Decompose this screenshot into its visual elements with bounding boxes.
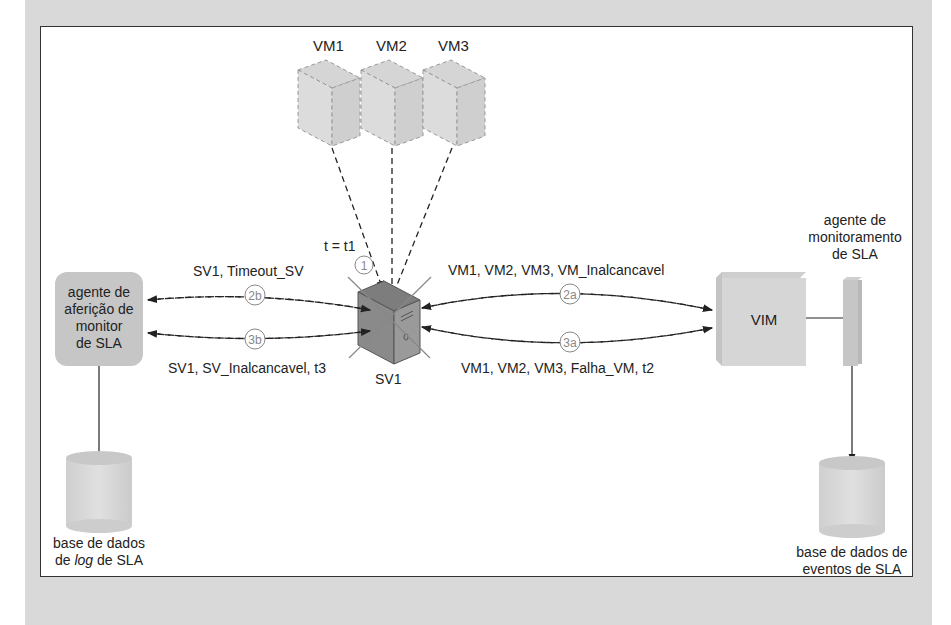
agent-line: monitor: [55, 318, 143, 335]
agent-line: de SLA: [55, 335, 143, 352]
db-italic: log: [74, 552, 93, 568]
db-line: base de dados de: [782, 544, 922, 561]
server-sv1-label: SV1: [375, 371, 401, 387]
db-line: de log de SLA: [44, 552, 154, 569]
step-2a-label: 2a: [560, 287, 580, 303]
sla-measurement-agent-label: agente de aferição de monitor de SLA: [55, 284, 143, 352]
step-3a-label: 3a: [560, 335, 580, 351]
time-label: t = t1: [324, 238, 356, 254]
vm2-label: VM2: [376, 38, 407, 54]
vm1-icon: [298, 60, 360, 146]
sla-events-database-icon: [819, 456, 885, 538]
db-prefix: de: [55, 552, 74, 568]
message-3b-text: SV1, SV_Inalcancavel, t3: [168, 360, 326, 376]
vm2-icon: [361, 60, 423, 146]
db-suffix: de SLA: [93, 552, 143, 568]
db-line: base de dados: [44, 535, 154, 552]
sla-events-database-label: base de dados de eventos de SLA: [782, 544, 922, 578]
step-1-label: 1: [355, 258, 373, 274]
agent-line: agente de: [790, 212, 920, 229]
vm3-label: VM3: [438, 38, 469, 54]
agent-line: aferição de: [55, 301, 143, 318]
sla-monitoring-agent-icon: [843, 277, 862, 366]
step-2b-label: 2b: [245, 288, 265, 304]
vm3-icon: [423, 60, 485, 146]
message-3a-text: VM1, VM2, VM3, Falha_VM, t2: [461, 360, 654, 376]
sla-monitoring-agent-label: agente de monitoramento de SLA: [790, 212, 920, 263]
agent-line: monitoramento: [790, 229, 920, 246]
step-3b-label: 3b: [245, 332, 265, 348]
db-line: eventos de SLA: [782, 561, 922, 578]
server-sv1-icon: [348, 277, 431, 364]
agent-line: agente de: [55, 284, 143, 301]
sla-log-database-label: base de dados de log de SLA: [44, 535, 154, 569]
vim-label: VIM: [722, 312, 806, 328]
sla-log-database-icon: [66, 451, 132, 533]
message-2a-text: VM1, VM2, VM3, VM_Inalcancavel: [448, 262, 664, 278]
agent-line: de SLA: [790, 246, 920, 263]
message-2b-text: SV1, Timeout_SV: [193, 263, 304, 279]
vm1-label: VM1: [313, 38, 344, 54]
